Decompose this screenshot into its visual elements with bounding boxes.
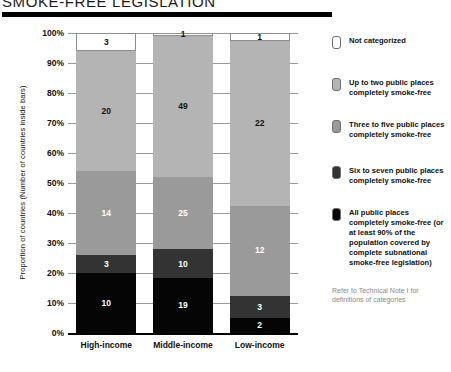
- bar-segment-value: 10: [178, 260, 187, 269]
- legend-swatch: [332, 120, 341, 133]
- y-axis-tick-label: 20%: [22, 268, 64, 278]
- bar-segment[interactable]: 10: [76, 273, 136, 333]
- legend-swatch: [332, 36, 341, 49]
- bar-segment[interactable]: 12: [230, 206, 290, 296]
- bar-middle-income[interactable]: 191025491: [153, 33, 213, 333]
- plot-area: 103142031910254912312221: [68, 33, 298, 333]
- bar-segment[interactable]: 10: [153, 249, 213, 278]
- bar-segment[interactable]: 2: [230, 318, 290, 333]
- bar-high-income[interactable]: 10314203: [76, 33, 136, 333]
- x-axis-line: [68, 333, 298, 335]
- y-axis-tick-label: 40%: [22, 208, 64, 218]
- bar-segment-value: 19: [178, 301, 187, 310]
- x-axis-tick-label: Low-income: [208, 340, 312, 350]
- y-axis-tick-label: 70%: [22, 118, 64, 128]
- bar-segment-value: 20: [102, 107, 111, 116]
- bar-segment-value: 1: [181, 30, 186, 39]
- legend-label: All public places completely smoke-free …: [349, 208, 450, 268]
- bar-segment-value: 22: [255, 119, 264, 128]
- bar-segment-value: 2: [257, 321, 262, 330]
- bar-segment[interactable]: 25: [153, 177, 213, 249]
- bar-segment-value: 14: [102, 209, 111, 218]
- legend-item[interactable]: Up to two public places completely smoke…: [332, 78, 450, 98]
- bar-segment-value: 12: [255, 246, 264, 255]
- y-axis-tick-label: 100%: [22, 28, 64, 38]
- y-axis-tick-label: 80%: [22, 88, 64, 98]
- bar-segment[interactable]: 19: [153, 278, 213, 333]
- legend-label: Up to two public places completely smoke…: [349, 78, 450, 98]
- bar-segment[interactable]: 3: [76, 33, 136, 51]
- bar-segment-value: 3: [104, 38, 109, 47]
- bar-segment-value: 3: [257, 303, 262, 312]
- bar-segment[interactable]: 3: [76, 255, 136, 273]
- bar-segment-value: 1: [257, 33, 262, 42]
- y-axis-tick-label: 30%: [22, 238, 64, 248]
- legend-item[interactable]: Not categorized: [332, 36, 450, 46]
- bar-segment-value: 10: [102, 299, 111, 308]
- legend-label: Six to seven public places completely sm…: [349, 166, 450, 186]
- bar-segment-value: 3: [104, 260, 109, 269]
- y-axis-tick-labels: 100%90%80%70%60%50%40%30%20%10%0%: [18, 33, 64, 335]
- legend-label: Three to five public places completely s…: [349, 120, 450, 140]
- legend-label: Not categorized: [349, 36, 450, 46]
- y-axis-tick-label: 10%: [22, 298, 64, 308]
- bar-segment-value: 25: [178, 209, 187, 218]
- y-axis-tick-label: 90%: [22, 58, 64, 68]
- legend-item[interactable]: Six to seven public places completely sm…: [332, 166, 450, 186]
- bar-segment[interactable]: 22: [230, 41, 290, 206]
- legend-item[interactable]: Three to five public places completely s…: [332, 120, 450, 140]
- title-divider: [2, 12, 332, 17]
- bar-segment[interactable]: 1: [153, 33, 213, 36]
- legend-swatch: [332, 166, 341, 179]
- bar-segment[interactable]: 1: [230, 33, 290, 41]
- y-axis-tick-label: 50%: [22, 178, 64, 188]
- bar-segment-value: 49: [178, 102, 187, 111]
- y-axis-tick-label: 0%: [22, 328, 64, 338]
- legend-swatch: [332, 208, 341, 221]
- legend-swatch: [332, 78, 341, 91]
- legend-note: Refer to Technical Note I for definition…: [332, 286, 450, 304]
- bar-segment[interactable]: 20: [76, 51, 136, 171]
- y-axis-tick-label: 60%: [22, 148, 64, 158]
- legend-item[interactable]: All public places completely smoke-free …: [332, 208, 450, 268]
- bar-low-income[interactable]: 2312221: [230, 33, 290, 333]
- bar-segment[interactable]: 14: [76, 171, 136, 255]
- bar-segment[interactable]: 3: [230, 296, 290, 319]
- bar-segment[interactable]: 49: [153, 36, 213, 177]
- page-title: SMOKE-FREE LEGISLATION: [2, 0, 216, 10]
